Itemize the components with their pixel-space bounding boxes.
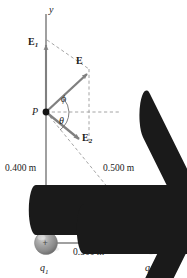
charge-q2-subscript: 2 [150, 268, 154, 276]
angle-theta-at-p-label: θ [59, 116, 64, 126]
charge-q1-label: q1 [40, 263, 49, 276]
y-axis-label: y [49, 5, 53, 15]
vector-E1-symbol: E [28, 37, 35, 47]
vector-E [46, 74, 87, 112]
vector-E2-subscript: 2 [89, 137, 93, 145]
point-p-label: P [32, 107, 38, 117]
charge-q1-subscript: 1 [45, 268, 49, 276]
vector-E-symbol: E [76, 56, 83, 66]
charge-q2-sphere [140, 232, 164, 254]
vector-E1-subscript: 1 [35, 41, 39, 49]
vector-E2-symbol: E [82, 133, 89, 143]
construction-lines-group [46, 40, 150, 239]
distance-horizontal-label: 0.300 m [73, 248, 104, 258]
angle-theta-at-q2-label: θ [114, 222, 119, 232]
vector-E-letter: E [76, 55, 83, 66]
charge-q1-sphere [35, 232, 60, 255]
electric-field-diagram: + − y x P E 1 E [0, 0, 187, 278]
vector-E2-label: E 2 [82, 133, 92, 145]
hypotenuse-dashed-line [46, 112, 150, 239]
distance-diagonal-label: 0.500 m [103, 164, 134, 174]
vector-E2-letter: E [82, 132, 89, 143]
arc-theta-at-q2 [124, 223, 133, 243]
angle-phi-label: ϕ [61, 94, 66, 104]
vector-E1-label: E 1 [28, 37, 38, 49]
distance-vertical-label: 0.400 m [5, 164, 36, 174]
charge-q2-label: q2 [145, 263, 154, 276]
x-axis-label: x [177, 238, 181, 248]
vector-E1-letter: E [28, 36, 35, 47]
point-p-marker [43, 109, 50, 116]
vector-E-label: E [76, 56, 83, 68]
